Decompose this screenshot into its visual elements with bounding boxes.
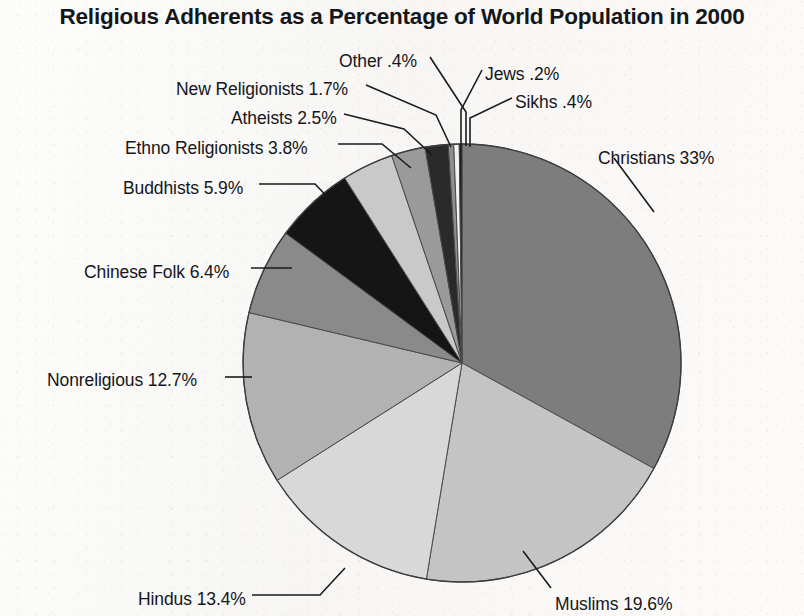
pie-slice-group: [243, 144, 681, 582]
pie-label-hindus: Hindus 13.4%: [138, 589, 246, 610]
pie-label-new-religionists: New Religionists 1.7%: [176, 79, 348, 100]
pie-label-sikhs: Sikhs .4%: [515, 92, 592, 113]
pie-label-chinese-folk: Chinese Folk 6.4%: [84, 262, 229, 283]
pie-label-nonreligious: Nonreligious 12.7%: [47, 370, 197, 391]
pie-label-ethno-religionists: Ethno Religionists 3.8%: [125, 138, 308, 159]
pie-chart: [0, 0, 804, 616]
leader-line-hindus: [252, 568, 345, 595]
leader-line-sikhs: [470, 98, 512, 147]
pie-label-jews: Jews .2%: [485, 64, 559, 85]
pie-label-christians: Christians 33%: [598, 148, 714, 169]
chart-page: Religious Adherents as a Percentage of W…: [0, 0, 804, 616]
pie-label-buddhists: Buddhists 5.9%: [123, 178, 243, 199]
pie-label-atheists: Atheists 2.5%: [231, 108, 337, 129]
pie-label-muslims: Muslims 19.6%: [555, 594, 672, 615]
leader-line-new-religionists: [366, 85, 451, 147]
pie-label-other: Other .4%: [339, 51, 417, 72]
